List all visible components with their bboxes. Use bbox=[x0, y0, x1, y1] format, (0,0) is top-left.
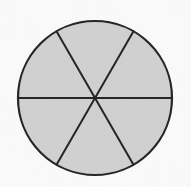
circle-diagram-svg bbox=[0, 0, 191, 187]
fraction-circle-figure bbox=[0, 0, 191, 187]
